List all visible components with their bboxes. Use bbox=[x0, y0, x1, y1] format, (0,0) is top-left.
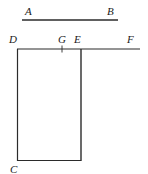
vertex-label-d: D bbox=[9, 34, 17, 45]
vertex-label-a: A bbox=[25, 6, 32, 17]
vertex-label-f: F bbox=[127, 34, 134, 45]
geometry-figure: A B D G E F C bbox=[0, 0, 148, 174]
vertex-label-b: B bbox=[107, 6, 114, 17]
figure-canvas bbox=[0, 0, 148, 174]
vertex-label-e: E bbox=[74, 34, 81, 45]
vertex-label-g: G bbox=[58, 34, 66, 45]
vertex-label-c: C bbox=[10, 164, 17, 174]
